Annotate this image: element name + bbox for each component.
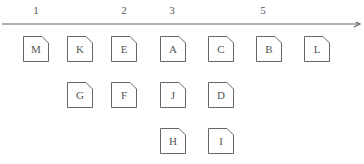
node-label: D bbox=[208, 82, 234, 108]
node-label: K bbox=[67, 36, 93, 62]
tick-label-2: 2 bbox=[121, 4, 127, 16]
tick-label-3: 3 bbox=[169, 4, 175, 16]
node-box-l: L bbox=[304, 36, 330, 62]
tick-label-5: 5 bbox=[260, 4, 266, 16]
node-label: J bbox=[160, 82, 186, 108]
node-label: I bbox=[208, 128, 234, 154]
timeline-axis-arrow-icon bbox=[2, 22, 362, 32]
node-box-k: K bbox=[67, 36, 93, 62]
node-box-c: C bbox=[208, 36, 234, 62]
node-box-f: F bbox=[111, 82, 137, 108]
node-box-i: I bbox=[208, 128, 234, 154]
tick-label-1: 1 bbox=[33, 4, 39, 16]
node-label: M bbox=[23, 36, 49, 62]
node-box-d: D bbox=[208, 82, 234, 108]
node-box-b: B bbox=[256, 36, 282, 62]
node-label: B bbox=[256, 36, 282, 62]
node-label: L bbox=[304, 36, 330, 62]
node-box-e: E bbox=[111, 36, 137, 62]
node-label: A bbox=[160, 36, 186, 62]
node-box-m: M bbox=[23, 36, 49, 62]
node-box-g: G bbox=[67, 82, 93, 108]
node-box-h: H bbox=[160, 128, 186, 154]
node-box-j: J bbox=[160, 82, 186, 108]
node-label: E bbox=[111, 36, 137, 62]
node-box-a: A bbox=[160, 36, 186, 62]
node-label: G bbox=[67, 82, 93, 108]
node-label: C bbox=[208, 36, 234, 62]
node-label: F bbox=[111, 82, 137, 108]
node-label: H bbox=[160, 128, 186, 154]
